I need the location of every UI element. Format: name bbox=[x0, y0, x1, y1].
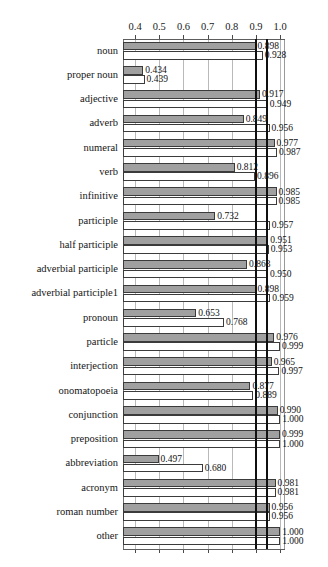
bar-series-2 bbox=[123, 100, 268, 109]
category-label: proper noun bbox=[0, 69, 118, 81]
bar-value-label: 0.928 bbox=[265, 50, 286, 60]
bar-series-1 bbox=[123, 309, 196, 318]
category-label: preposition bbox=[0, 433, 118, 445]
category-label: noun bbox=[0, 45, 118, 57]
bar-series-2 bbox=[123, 75, 145, 84]
category-label: conjunction bbox=[0, 409, 118, 421]
bar-value-label: 0.949 bbox=[270, 99, 291, 109]
bar-value-label: 1.000 bbox=[282, 439, 303, 449]
x-tick-label: 0.9 bbox=[249, 20, 262, 34]
category-label: half participle bbox=[0, 239, 118, 251]
category-label: verb bbox=[0, 166, 118, 178]
category-label: adverbial participle bbox=[0, 263, 118, 275]
category-label: adverbial participle1 bbox=[0, 287, 118, 299]
bar-value-label: 0.849 bbox=[246, 114, 267, 124]
bar-value-label: 0.812 bbox=[237, 162, 258, 172]
bar-series-1 bbox=[123, 42, 256, 51]
x-tick-label: 0.6 bbox=[177, 20, 190, 34]
category-label: roman number bbox=[0, 506, 118, 518]
bar-series-2 bbox=[123, 464, 203, 473]
bar-series-2 bbox=[123, 51, 263, 60]
bar-value-label: 0.680 bbox=[205, 463, 226, 473]
bar-value-label: 0.956 bbox=[272, 511, 293, 521]
category-label: infinitive bbox=[0, 190, 118, 202]
bar-value-label: 0.953 bbox=[271, 244, 292, 254]
category-label: adverb bbox=[0, 117, 118, 129]
bar-series-2 bbox=[123, 318, 224, 327]
bar-series-2 bbox=[123, 245, 269, 254]
bar-series-1 bbox=[123, 139, 275, 148]
bar-value-label: 0.439 bbox=[147, 74, 168, 84]
bar-series-2 bbox=[123, 294, 270, 303]
bar-series-2 bbox=[123, 124, 270, 133]
x-tick-label: 0.4 bbox=[129, 20, 142, 34]
bar-series-1 bbox=[123, 479, 276, 488]
x-tick-label: 0.7 bbox=[201, 20, 214, 34]
bar-value-label: 0.999 bbox=[282, 341, 303, 351]
category-label: acronym bbox=[0, 482, 118, 494]
x-tick-label: 0.8 bbox=[225, 20, 238, 34]
bar-value-label: 0.987 bbox=[279, 147, 300, 157]
bar-series-2 bbox=[123, 221, 270, 230]
bar-series-1 bbox=[123, 285, 256, 294]
category-label: abbreviation bbox=[0, 457, 118, 469]
bar-value-label: 1.000 bbox=[282, 536, 303, 546]
bar-series-1 bbox=[123, 187, 277, 196]
bar-value-label: 0.985 bbox=[279, 196, 300, 206]
bar-series-2 bbox=[123, 391, 253, 400]
bar-series-1 bbox=[123, 90, 260, 99]
category-label: particle bbox=[0, 336, 118, 348]
bar-chart: 0.40.50.60.70.80.91.0 noun0.8980.928prop… bbox=[0, 0, 328, 567]
bar-series-1 bbox=[123, 382, 250, 391]
bar-value-label: 0.959 bbox=[272, 293, 293, 303]
category-label: pronoun bbox=[0, 312, 118, 324]
bar-value-label: 0.896 bbox=[257, 171, 278, 181]
bar-value-label: 0.497 bbox=[161, 454, 182, 464]
category-label: onomatopoeia bbox=[0, 385, 118, 397]
category-label: other bbox=[0, 530, 118, 542]
bar-series-1 bbox=[123, 357, 272, 366]
bar-series-2 bbox=[123, 148, 277, 157]
bar-series-2 bbox=[123, 270, 268, 279]
category-label: numeral bbox=[0, 142, 118, 154]
bar-series-1 bbox=[123, 115, 244, 124]
x-tick-label: 0.5 bbox=[153, 20, 166, 34]
category-label: interjection bbox=[0, 360, 118, 372]
category-label: adjective bbox=[0, 93, 118, 105]
bar-series-1 bbox=[123, 503, 270, 512]
bar-value-label: 0.653 bbox=[198, 308, 219, 318]
x-tick-label: 1.0 bbox=[274, 20, 287, 34]
x-axis-labels-bottom bbox=[0, 552, 328, 566]
bar-value-label: 0.889 bbox=[255, 390, 276, 400]
bar-value-label: 1.000 bbox=[282, 414, 303, 424]
axis-line bbox=[123, 549, 285, 550]
bar-value-label: 0.732 bbox=[217, 211, 238, 221]
bar-value-label: 0.950 bbox=[270, 269, 291, 279]
bar-series-1 bbox=[123, 260, 247, 269]
bar-series-2 bbox=[123, 488, 276, 497]
x-axis-labels-top: 0.40.50.60.70.80.91.0 bbox=[0, 20, 328, 34]
bar-series-2 bbox=[123, 172, 255, 181]
bar-series-1 bbox=[123, 212, 215, 221]
bar-series-1 bbox=[123, 66, 143, 75]
bar-value-label: 0.768 bbox=[226, 317, 247, 327]
bar-value-label: 0.997 bbox=[281, 366, 302, 376]
bar-value-label: 0.981 bbox=[278, 487, 299, 497]
bar-series-2 bbox=[123, 197, 277, 206]
bar-value-label: 0.863 bbox=[249, 259, 270, 269]
bar-series-1 bbox=[123, 236, 268, 245]
bar-series-1 bbox=[123, 163, 235, 172]
bar-value-label: 0.956 bbox=[272, 123, 293, 133]
bar-value-label: 0.957 bbox=[272, 220, 293, 230]
bar-series-1 bbox=[123, 455, 159, 464]
bar-series-1 bbox=[123, 333, 274, 342]
bar-series-2 bbox=[123, 512, 270, 521]
category-label: participle bbox=[0, 215, 118, 227]
